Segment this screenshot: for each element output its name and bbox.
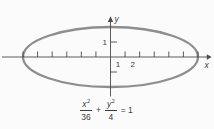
x-tick-label: 1	[116, 60, 121, 69]
fraction-numerator: x2	[80, 100, 92, 111]
fraction-denominator: 4	[108, 111, 113, 121]
var-x: x	[82, 100, 86, 109]
var-y: y	[107, 100, 111, 109]
y-axis-arrow-icon	[108, 16, 113, 22]
exponent: 2	[87, 99, 90, 105]
y-axis-label: y	[113, 14, 119, 24]
fraction-x2-over-36: x2 36	[80, 100, 92, 121]
exponent: 2	[112, 99, 115, 105]
y-tick-label: 1	[103, 38, 108, 47]
x-axis-arrow-icon	[207, 54, 212, 59]
ellipse-equation: x2 36 + y2 4 = 1	[0, 100, 214, 121]
x-axis-label: x	[203, 60, 209, 70]
ellipse-figure: 121x y x2 36 + y2 4 = 1	[0, 0, 214, 129]
fraction-denominator: 36	[81, 111, 90, 121]
fraction-y2-over-4: y2 4	[105, 100, 117, 121]
plus-operator: +	[95, 106, 102, 115]
fraction-numerator: y2	[105, 100, 117, 111]
equals-one: = 1	[120, 106, 134, 115]
x-tick-label: 2	[130, 60, 135, 69]
